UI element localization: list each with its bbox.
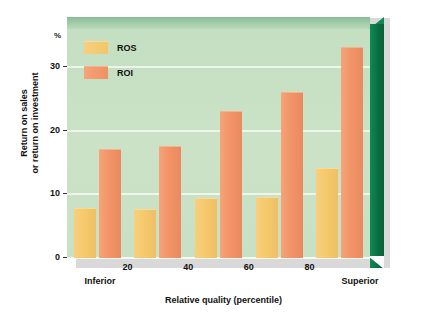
frame-right-panel [370,24,384,268]
y-axis-title-line1: Return on sales [19,38,30,208]
x-tick-label: 40 [173,262,203,272]
y-tick-mark [63,130,67,131]
bar-ros-10 [74,208,96,258]
y-axis-title-line2: or return on investment [30,38,41,208]
bar-ros-30 [134,209,156,258]
bar-roi-90 [341,47,363,258]
legend-label-roi: ROI [117,68,133,78]
chart-figure: 0102030 % Return on sales or return on i… [0,0,447,316]
plot-area [67,29,370,258]
legend-item-roi: ROI [84,66,133,79]
bar-ros-50 [195,198,217,258]
legend-label-ros: ROS [117,43,137,53]
y-axis-unit-label: % [54,31,61,40]
bar-roi-50 [220,111,242,258]
y-tick-mark [63,66,67,67]
bar-roi-30 [159,146,181,258]
y-tick-mark [63,257,67,258]
bar-ros-70 [256,197,278,258]
x-axis-high-label: Superior [325,276,395,286]
legend-swatch-ros-icon [84,41,108,54]
bar-roi-70 [281,92,303,258]
frame-right-panel-face [370,24,384,268]
x-axis-low-label: Inferior [65,276,135,286]
bar-roi-10 [99,149,121,258]
x-axis-title: Relative quality (percentile) [0,295,447,305]
legend-item-ros: ROS [84,41,137,54]
y-tick-label: 0 [36,252,60,262]
bar-ros-90 [316,168,338,258]
frame-corner-bottom-right [368,256,384,269]
x-tick-label: 80 [294,262,324,272]
x-tick-label: 60 [234,262,264,272]
x-tick-label: 20 [113,262,143,272]
y-tick-mark [63,193,67,194]
y-axis-title: Return on sales or return on investment [19,38,41,208]
legend-swatch-roi-icon [84,66,108,79]
bars-layer [67,29,370,258]
